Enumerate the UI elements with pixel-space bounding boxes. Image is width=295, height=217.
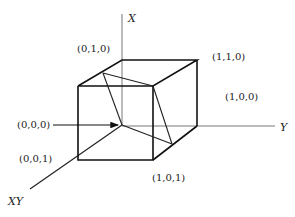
label-000: (0,0,0) xyxy=(17,119,50,130)
xy-axis-label: XY xyxy=(7,195,25,208)
x-axis-label: X xyxy=(127,12,137,25)
diagonal-top-right-to-bottom xyxy=(153,86,172,144)
label-001: (0,0,1) xyxy=(19,153,52,164)
label-100: (1,0,0) xyxy=(225,91,258,102)
label-110: (1,1,0) xyxy=(212,51,245,62)
cube-bottom-right-edge xyxy=(153,126,197,160)
diagonal-origin-to-bottom xyxy=(122,125,172,144)
diagonal-top-left-to-origin xyxy=(103,73,122,125)
label-010: (0,1,0) xyxy=(77,43,110,54)
cube xyxy=(78,60,197,160)
diagonal-top-left-to-right xyxy=(103,73,153,86)
y-axis-label: Y xyxy=(280,121,289,134)
label-101: (1,0,1) xyxy=(152,172,185,183)
cube-front-face xyxy=(78,86,153,160)
cube-diagram: X Y XY (0,1,0) (1,1,0) (1,0,0) (0,0,0) (… xyxy=(0,0,295,217)
